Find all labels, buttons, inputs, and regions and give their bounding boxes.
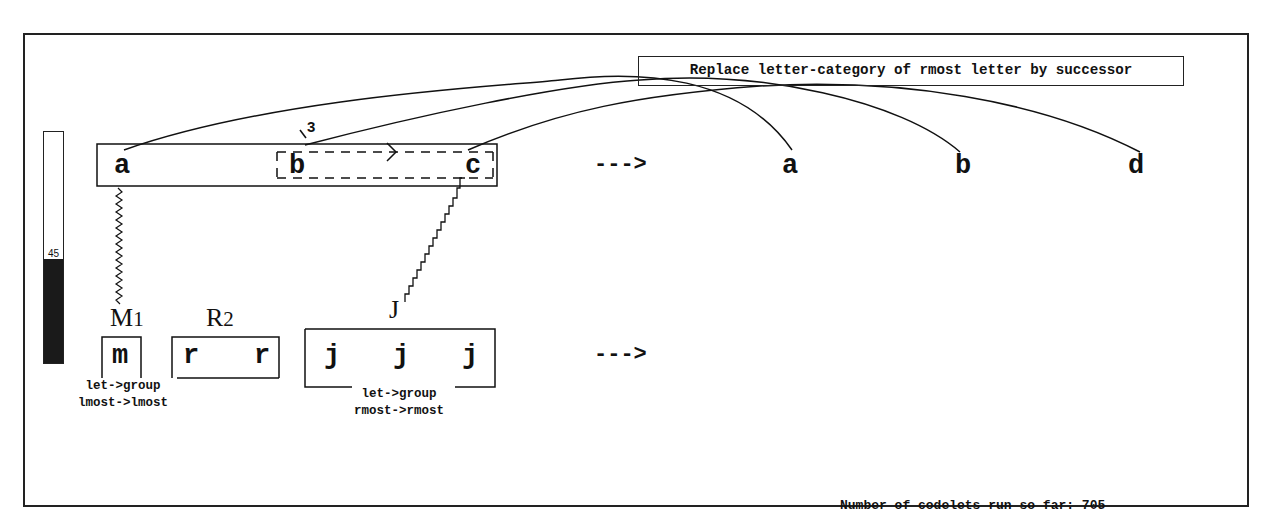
- group-label-m: M1: [110, 305, 144, 331]
- correspondence-arc-c: [468, 84, 1140, 152]
- group-label-j: J: [389, 297, 399, 323]
- description-line: rmost->rmost: [336, 403, 462, 420]
- bond-tick-icon: [300, 130, 306, 138]
- group-label-r: R2: [206, 305, 234, 331]
- description-line: let->group: [60, 378, 186, 395]
- correspondence-arc-b: [305, 78, 960, 152]
- top-arrow: --->: [594, 152, 647, 177]
- target-letter-r1: r: [183, 343, 199, 370]
- m-group-description: let->group lmost->lmost: [60, 378, 186, 412]
- bc-group-dashed-box: [277, 152, 493, 178]
- target-letter-j2: j: [393, 343, 409, 370]
- target-letter-j1: j: [324, 343, 340, 370]
- mapping-staircase-c-j: [405, 178, 465, 302]
- correspondence-arc-a: [124, 76, 792, 150]
- bottom-arrow: --->: [594, 342, 647, 367]
- description-line: lmost->lmost: [60, 395, 186, 412]
- modified-letter-a: a: [782, 153, 798, 180]
- initial-letter-b: b: [289, 153, 305, 180]
- initial-letter-a: a: [114, 153, 130, 180]
- codelet-counter-value: 705: [1082, 498, 1105, 513]
- codelet-counter: Number of codelets run so far: 705: [840, 498, 1105, 513]
- bond-strength: 3: [307, 118, 315, 135]
- temperature-value: 45: [44, 248, 63, 259]
- temperature-gauge: 45: [43, 131, 64, 364]
- temperature-fill: [44, 259, 63, 363]
- modified-letter-d: d: [1128, 153, 1144, 180]
- initial-letter-c: c: [465, 153, 481, 180]
- j-group-description: let->group rmost->rmost: [336, 386, 462, 420]
- rule-description: Replace letter-category of rmost letter …: [638, 56, 1184, 86]
- target-letter-m: m: [112, 343, 128, 370]
- codelet-counter-label: Number of codelets run so far:: [840, 498, 1074, 513]
- target-letter-j3: j: [462, 343, 478, 370]
- mapping-zigzag-a-m: [116, 188, 122, 304]
- description-line: let->group: [336, 386, 462, 403]
- target-letter-r2: r: [254, 343, 270, 370]
- modified-letter-b: b: [955, 153, 971, 180]
